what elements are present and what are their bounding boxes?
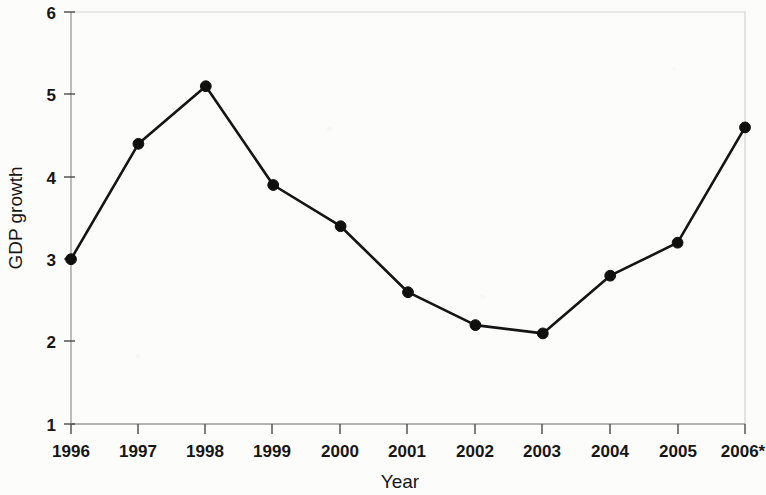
data-point: [133, 138, 144, 149]
x-tick-label: 1999: [253, 442, 291, 461]
x-tick-label: 1997: [119, 442, 157, 461]
x-axis-title: Year: [381, 471, 420, 492]
x-tick-marks: [71, 424, 745, 434]
x-tick-label: 2000: [321, 442, 359, 461]
y-tick-label: 6: [47, 4, 56, 23]
data-point: [268, 180, 279, 191]
y-tick-label: 3: [47, 251, 56, 270]
data-point: [740, 122, 751, 133]
x-tick-label: 2001: [388, 442, 426, 461]
data-point: [403, 287, 414, 298]
data-point: [200, 81, 211, 92]
plot-frame: [71, 12, 745, 424]
x-tick-label: 1998: [186, 442, 224, 461]
x-tick-label: 2004: [591, 442, 629, 461]
x-tick-label: 2005: [659, 442, 697, 461]
x-tick-labels: 1996 1997 1998 1999 2000 2001 2002 2003 …: [52, 442, 766, 461]
y-tick-marks: [64, 12, 75, 424]
data-point: [537, 328, 548, 339]
x-tick-label: 2003: [523, 442, 561, 461]
data-point: [66, 254, 77, 265]
data-point: [672, 237, 683, 248]
y-tick-label: 1: [47, 416, 56, 435]
x-tick-label: 2006*: [721, 442, 766, 461]
data-point: [470, 320, 481, 331]
y-axis-title: GDP growth: [5, 166, 26, 269]
x-tick-label: 2002: [456, 442, 494, 461]
data-point: [335, 221, 346, 232]
y-tick-label: 4: [47, 169, 57, 188]
gdp-growth-line-chart: 6 5 4 3 2 1 1996 1997 1998 1999: [0, 0, 766, 495]
y-tick-labels: 6 5 4 3 2 1: [47, 4, 57, 435]
y-tick-label: 2: [47, 333, 56, 352]
data-point: [605, 270, 616, 281]
x-tick-label: 1996: [52, 442, 90, 461]
chart-page: 6 5 4 3 2 1 1996 1997 1998 1999: [0, 0, 766, 495]
y-tick-label: 5: [47, 86, 56, 105]
